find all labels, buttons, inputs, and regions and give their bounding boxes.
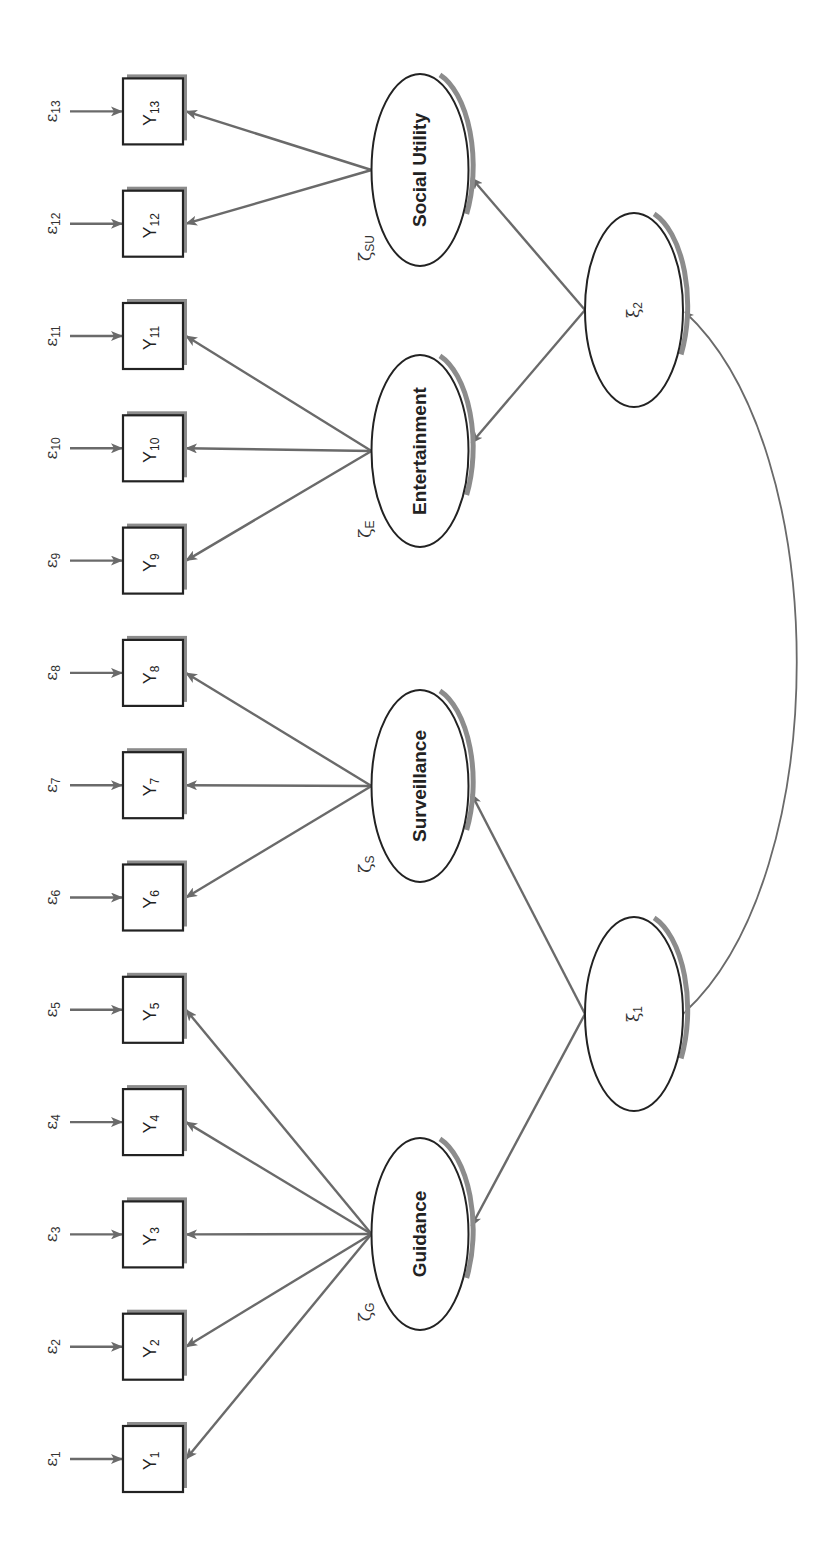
latent-factor-guidance: GuidanceζG: [355, 1138, 474, 1330]
structural-arrow-xi1-surveillance: [472, 794, 586, 1014]
disturbance-label-base: ζ: [355, 863, 375, 872]
observed-label-subscript: 7: [148, 778, 162, 785]
disturbance-label-subscript: G: [363, 1303, 377, 1312]
error-label-base: ε: [41, 784, 61, 793]
error-label-subscript: 11: [49, 325, 63, 338]
observed-variable-y6: Y6ε6: [41, 861, 188, 931]
disturbance-label-subscript: E: [363, 520, 377, 528]
observed-variable-y5: Y5ε5: [41, 973, 188, 1043]
observed-label-base: Y: [140, 897, 160, 909]
error-label: ε2: [41, 1339, 64, 1355]
loading-arrow-y1: [186, 1234, 372, 1459]
error-label-subscript: 2: [49, 1339, 63, 1346]
observed-variable-y10: Y10ε10: [41, 411, 188, 481]
observed-variable-y7: Y7ε7: [41, 748, 188, 818]
error-label-base: ε: [41, 113, 61, 122]
disturbance-label: ζS: [355, 855, 378, 872]
observed-label-subscript: 5: [148, 1002, 162, 1009]
observed-label-base: Y: [140, 1458, 160, 1470]
observed-label-subscript: 1: [148, 1451, 162, 1458]
disturbance-label-base: ζ: [355, 1312, 375, 1321]
latent-factor-social-utility: Social UtilityζSU: [355, 74, 474, 266]
error-label: ε11: [41, 325, 64, 347]
xi-label-subscript: 2: [631, 302, 645, 309]
error-label: ε8: [41, 665, 64, 681]
error-label: ε6: [41, 889, 64, 905]
observed-variable-y13: Y13ε13: [41, 74, 188, 144]
error-label-base: ε: [41, 559, 61, 568]
error-label-base: ε: [41, 1233, 61, 1242]
structural-arrow-xi2-social_utility: [472, 178, 586, 310]
error-label-base: ε: [41, 1345, 61, 1354]
observed-label-base: Y: [140, 785, 160, 797]
error-label-base: ε: [41, 226, 61, 235]
error-label-base: ε: [41, 896, 61, 905]
error-label: ε13: [41, 100, 64, 122]
loading-arrow-y7: [186, 785, 372, 786]
observed-label-base: Y: [140, 672, 160, 684]
observed-label-subscript: 6: [148, 890, 162, 897]
covariance-arrow-xi1-xi2: [685, 312, 797, 1012]
disturbance-label: ζSU: [355, 235, 378, 261]
loading-arrow-y11: [186, 336, 372, 451]
error-label: ε10: [41, 437, 64, 459]
factor-label: Surveillance: [409, 730, 430, 842]
nodes-layer: Y1ε1Y2ε2Y3ε3Y4ε4Y5ε5Y6ε6Y7ε7Y8ε8Y9ε9Y10ε…: [41, 74, 688, 1492]
error-label-subscript: 12: [49, 212, 63, 226]
observed-label-subscript: 2: [148, 1339, 162, 1346]
error-label-subscript: 10: [49, 437, 63, 451]
observed-label-subscript: 13: [148, 100, 162, 114]
error-label-base: ε: [41, 1121, 61, 1130]
observed-variable-y12: Y12ε12: [41, 187, 188, 257]
observed-label-base: Y: [140, 338, 160, 350]
loading-arrow-y9: [186, 451, 372, 561]
structural-arrow-xi2-entertainment: [472, 310, 586, 443]
disturbance-label-subscript: SU: [363, 235, 377, 252]
error-label-base: ε: [41, 1009, 61, 1018]
error-label: ε12: [41, 212, 64, 234]
disturbance-label-subscript: S: [363, 855, 377, 863]
loading-arrow-y6: [186, 786, 372, 898]
observed-variable-y11: Y11ε11: [41, 299, 188, 369]
observed-variable-y3: Y3ε3: [41, 1197, 188, 1267]
error-label-subscript: 6: [49, 889, 63, 896]
disturbance-label: ζG: [355, 1303, 378, 1322]
observed-label-base: Y: [140, 560, 160, 572]
observed-label-subscript: 12: [148, 213, 162, 227]
error-label: ε4: [41, 1114, 64, 1130]
observed-label-base: Y: [140, 114, 160, 126]
exogenous-factor-xi2: ξ2: [585, 213, 688, 407]
loading-arrow-y4: [186, 1122, 372, 1234]
xi-label-base: ξ: [623, 309, 643, 318]
error-label-base: ε: [41, 450, 61, 459]
structural-arrow-xi1-guidance: [472, 1014, 586, 1226]
factor-label: Entertainment: [409, 386, 430, 514]
observed-variable-y8: Y8ε8: [41, 636, 188, 706]
error-label: ε3: [41, 1226, 64, 1242]
loading-arrow-y10: [186, 448, 372, 451]
disturbance-label-base: ζ: [355, 528, 375, 537]
disturbance-label-base: ζ: [355, 252, 375, 261]
observed-variable-y2: Y2ε2: [41, 1310, 188, 1380]
error-label-subscript: 7: [49, 777, 63, 784]
error-label-base: ε: [41, 1458, 61, 1467]
observed-label-base: Y: [140, 1346, 160, 1358]
loading-arrow-y8: [186, 673, 372, 786]
observed-label-base: Y: [140, 1009, 160, 1021]
xi-label-subscript: 1: [631, 1006, 645, 1013]
observed-label-subscript: 8: [148, 665, 162, 672]
observed-label-subscript: 4: [148, 1114, 162, 1121]
latent-factor-surveillance: SurveillanceζS: [355, 690, 474, 882]
error-label-subscript: 4: [49, 1114, 63, 1121]
loading-arrow-y12: [186, 170, 372, 224]
error-label-subscript: 9: [49, 553, 63, 560]
factor-label: Social Utility: [409, 113, 430, 227]
error-label-subscript: 5: [49, 1002, 63, 1009]
observed-label-base: Y: [140, 451, 160, 463]
exogenous-factor-xi1: ξ1: [585, 917, 688, 1111]
observed-label-base: Y: [140, 1121, 160, 1133]
sem-diagram-canvas: Y1ε1Y2ε2Y3ε3Y4ε4Y5ε5Y6ε6Y7ε7Y8ε8Y9ε9Y10ε…: [0, 0, 819, 1545]
factor-label: Guidance: [409, 1191, 430, 1278]
latent-factor-entertainment: EntertainmentζE: [355, 355, 474, 547]
error-label-subscript: 1: [49, 1451, 63, 1458]
